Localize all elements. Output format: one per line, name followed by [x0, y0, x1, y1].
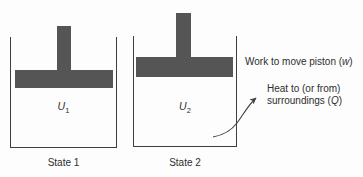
- energy-subscript-2: 2: [187, 106, 191, 115]
- heat-annotation: Heat to (or from) surroundings (Q): [267, 83, 342, 106]
- work-annotation-close: ): [349, 56, 352, 67]
- heat-annotation-close: ): [339, 95, 342, 106]
- work-annotation: Work to move piston (w): [245, 56, 353, 68]
- state-2-caption: State 2: [133, 157, 237, 168]
- heat-symbol: Q: [331, 95, 339, 106]
- work-annotation-text: Work to move piston (: [245, 56, 342, 67]
- heat-annotation-line2: surroundings (Q): [267, 95, 342, 107]
- cylinder-1: [10, 37, 117, 148]
- energy-symbol-2: U: [179, 100, 187, 112]
- state-1-group: U1 State 1: [10, 0, 117, 177]
- heat-annotation-line1: Heat to (or from): [267, 83, 342, 95]
- internal-energy-label-2: U2: [133, 100, 237, 112]
- cylinder-2: [133, 36, 237, 147]
- internal-energy-label-1: U1: [10, 100, 117, 112]
- state-2-group: U2 State 2: [133, 0, 237, 177]
- heat-annotation-text: surroundings (: [267, 95, 331, 106]
- energy-subscript-1: 1: [65, 106, 69, 115]
- thermodynamics-piston-diagram: U1 State 1 U2 State 2 Work to move pisto…: [0, 0, 363, 177]
- state-1-caption: State 1: [10, 157, 117, 168]
